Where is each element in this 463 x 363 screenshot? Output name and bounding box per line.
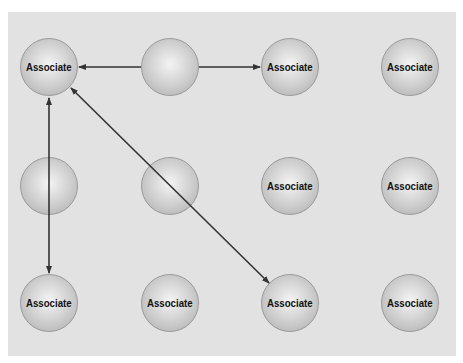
node-empty-r1c0 [20,157,78,215]
node-associate-r0c3: Associate [381,38,439,96]
node-associate-r2c2: Associate [261,274,319,332]
node-associate-r0c2: Associate [261,38,319,96]
node-label: Associate [387,61,433,73]
node-associate-r2c3: Associate [381,274,439,332]
node-associate-r1c2: Associate [261,157,319,215]
node-associate-r2c0: Associate [20,274,78,332]
node-label: Associate [387,297,433,309]
node-label: Associate [26,297,72,309]
node-label: Associate [387,180,433,192]
node-label: Associate [26,61,72,73]
node-associate-r2c1: Associate [141,274,199,332]
node-label: Associate [147,297,193,309]
node-associate-r0c0: Associate [20,38,78,96]
node-label: Associate [267,61,313,73]
node-empty-r0c1 [141,38,199,96]
node-label: Associate [267,297,313,309]
node-label: Associate [267,180,313,192]
node-associate-r1c3: Associate [381,157,439,215]
node-empty-r1c1 [141,157,199,215]
